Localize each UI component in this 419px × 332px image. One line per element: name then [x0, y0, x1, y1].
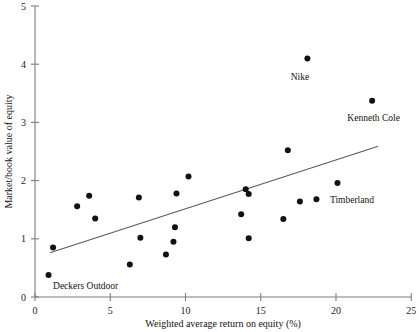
data-point-17: 16.5, 1.34	[280, 216, 286, 222]
data-point-22: 20.1, 1.96	[335, 180, 341, 186]
data-point-6: 6.9, 1.71	[136, 194, 142, 200]
x-tick-label-10: 10	[181, 305, 191, 316]
regression-line	[50, 146, 378, 253]
x-tick-label-25: 25	[406, 305, 416, 316]
y-tick-label-1: 1	[21, 233, 26, 244]
y-tick-label-2: 2	[21, 175, 26, 186]
y-tick-label-5: 5	[21, 1, 26, 12]
data-point-0: Deckers Outdoor — 0.9, 0.38	[46, 272, 52, 278]
data-point-21: Timberland — 18.7, 1.68	[313, 196, 319, 202]
data-point-15: 14.2, 1.77	[246, 191, 252, 197]
data-point-10: 9.3, 1.2	[172, 224, 178, 230]
annotation-deckers-outdoor: Deckers Outdoor	[53, 281, 119, 291]
data-point-7: 7, 1.02	[137, 235, 143, 241]
data-point-16: 14.2, 1.01	[246, 235, 252, 241]
data-point-11: 9.4, 1.78	[173, 190, 179, 196]
annotation-nike: Nike	[291, 72, 309, 82]
data-point-9: 9.2, 0.95	[170, 239, 176, 245]
x-tick-label-20: 20	[331, 305, 341, 316]
y-tick-label-3: 3	[21, 117, 26, 128]
data-point-19: 17.6, 1.64	[297, 199, 303, 205]
x-tick-label-5: 5	[108, 305, 113, 316]
data-point-8: 8.7, 0.73	[163, 252, 169, 258]
data-point-3: 3.6, 1.74	[86, 193, 92, 199]
point-annotations: NikeKenneth ColeTimberlandDeckers Outdoo…	[53, 72, 400, 290]
data-point-5: 6.3, 0.56	[127, 261, 133, 267]
annotation-kenneth-cole: Kenneth Cole	[347, 113, 400, 123]
data-point-12: 10.2, 2.07	[186, 174, 192, 180]
annotation-timberland: Timberland	[330, 195, 374, 205]
data-point-18: 16.8, 2.52	[285, 147, 291, 153]
data-points: Deckers Outdoor — 0.9, 0.381.2, 0.852.8,…	[46, 55, 376, 278]
data-point-4: 4, 1.35	[92, 215, 98, 221]
y-tick-label-0: 0	[21, 292, 26, 303]
axes	[35, 6, 411, 297]
plot-area: 0510152025012345 Deckers Outdoor — 0.9, …	[0, 0, 419, 332]
y-tick-label-4: 4	[21, 59, 26, 70]
tick-labels: 0510152025012345	[21, 1, 416, 317]
data-point-1: 1.2, 0.85	[50, 245, 56, 251]
data-point-20: Nike — 18.1, 4.1	[304, 55, 310, 61]
data-point-13: 13.7, 1.42	[238, 211, 244, 217]
scatter-chart: 0510152025012345 Deckers Outdoor — 0.9, …	[0, 0, 419, 332]
axis-titles: Weighted average return on equity (%)Mar…	[3, 94, 301, 330]
y-axis-title: Market/book value of equity	[3, 94, 14, 208]
data-point-23: Kenneth Cole — 22.4, 3.37	[369, 98, 375, 104]
trend-line	[50, 146, 378, 253]
x-tick-label-0: 0	[33, 305, 38, 316]
x-tick-label-15: 15	[256, 305, 266, 316]
x-axis-title: Weighted average return on equity (%)	[145, 318, 301, 330]
data-point-2: 2.8, 1.56	[74, 203, 80, 209]
